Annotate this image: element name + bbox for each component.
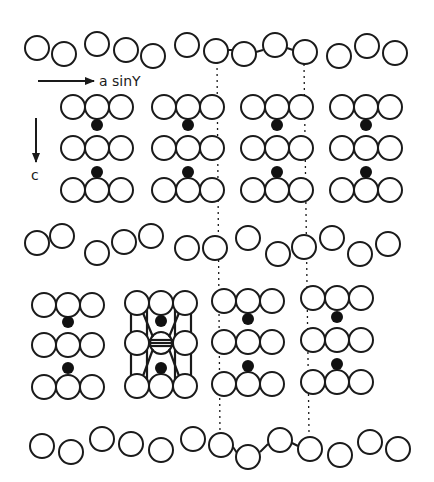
atom: [330, 95, 354, 119]
middle-layer: [25, 224, 400, 266]
interstitial-atom: [360, 166, 372, 178]
atom: [260, 289, 284, 313]
axes: a sinY c: [31, 73, 141, 183]
atom: [320, 226, 344, 250]
atom: [200, 178, 224, 202]
atom: [119, 432, 143, 456]
atom: [298, 437, 322, 461]
interstitial-atom: [182, 166, 194, 178]
interstitial-atom: [62, 362, 74, 374]
atom: [149, 291, 173, 315]
atom: [378, 136, 402, 160]
atom: [241, 178, 265, 202]
atom: [175, 236, 199, 260]
group-upper-2: [152, 95, 224, 202]
atom: [85, 178, 109, 202]
atom: [378, 178, 402, 202]
interstitial-atom: [155, 315, 167, 327]
group-lower-4: [301, 286, 373, 394]
atom: [293, 40, 317, 64]
a-sin-gamma-label: a sinY: [99, 73, 141, 89]
atom: [152, 136, 176, 160]
atom: [50, 224, 74, 248]
atom: [301, 286, 325, 310]
interstitial-atom: [331, 311, 343, 323]
atom: [236, 372, 260, 396]
atom: [52, 42, 76, 66]
atom: [204, 39, 228, 63]
atom: [181, 427, 205, 451]
atom: [125, 291, 149, 315]
atom: [232, 42, 256, 66]
interstitial-atom: [91, 166, 103, 178]
atom: [25, 231, 49, 255]
atom: [292, 235, 316, 259]
atom: [378, 95, 402, 119]
atom: [200, 136, 224, 160]
atom: [349, 370, 373, 394]
atom: [90, 427, 114, 451]
atom: [386, 437, 410, 461]
atom: [175, 33, 199, 57]
atom: [56, 333, 80, 357]
atom: [289, 136, 313, 160]
atom: [173, 374, 197, 398]
group-lower-3: [212, 289, 284, 396]
atom: [85, 32, 109, 56]
interstitial-atom: [271, 119, 283, 131]
atom: [265, 178, 289, 202]
atom: [141, 44, 165, 68]
atom: [209, 433, 233, 457]
atom: [330, 178, 354, 202]
atom: [61, 95, 85, 119]
atom: [355, 34, 379, 58]
atom: [265, 136, 289, 160]
atom: [236, 330, 260, 354]
bond: [260, 444, 268, 452]
atom: [203, 236, 227, 260]
atom: [325, 286, 349, 310]
bottom-layer: [30, 427, 410, 469]
atom: [236, 289, 260, 313]
group-upper-1: [61, 95, 133, 202]
atom: [212, 372, 236, 396]
atom: [109, 178, 133, 202]
group-upper-3: [241, 95, 313, 202]
atom: [212, 330, 236, 354]
top-layer: [25, 32, 407, 68]
atom: [241, 136, 265, 160]
atom: [176, 136, 200, 160]
atom: [152, 95, 176, 119]
atom: [265, 95, 289, 119]
atom: [149, 374, 173, 398]
atom: [139, 224, 163, 248]
atom: [301, 370, 325, 394]
atom: [176, 178, 200, 202]
interstitial-atom: [91, 119, 103, 131]
interstitial-atom: [62, 316, 74, 328]
atom: [56, 375, 80, 399]
atom: [85, 95, 109, 119]
atom: [289, 178, 313, 202]
atom: [260, 372, 284, 396]
atom: [125, 374, 149, 398]
interstitial-atom: [242, 313, 254, 325]
atom: [358, 430, 382, 454]
interstitial-atom: [271, 166, 283, 178]
atom: [80, 333, 104, 357]
atom: [30, 434, 54, 458]
interstitial-atom: [331, 358, 343, 370]
group-upper-4: [330, 95, 402, 202]
group-lower-1: [32, 293, 104, 399]
atom: [354, 95, 378, 119]
atom: [32, 375, 56, 399]
atom: [327, 44, 351, 68]
atom: [32, 293, 56, 317]
crystal-structure-diagram: a sinY c: [0, 0, 434, 482]
atom: [236, 226, 260, 250]
atom: [25, 36, 49, 60]
atom: [125, 331, 149, 355]
atom: [241, 95, 265, 119]
interstitial-atom: [155, 362, 167, 374]
interstitial-atom: [360, 119, 372, 131]
